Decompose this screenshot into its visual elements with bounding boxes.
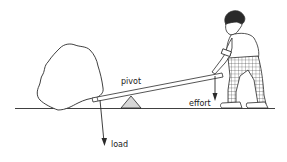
lever-diagram: pivot effort load <box>0 0 287 162</box>
man <box>212 11 268 108</box>
man-head <box>226 22 242 35</box>
pivot-fulcrum <box>121 96 141 108</box>
effort-label: effort <box>189 100 211 108</box>
lever-beam <box>92 73 223 102</box>
effort-arrow-head <box>213 93 218 101</box>
lever-illustration <box>0 0 287 162</box>
pivot-label: pivot <box>121 78 141 86</box>
load-arrow-head <box>102 138 108 146</box>
man-shoe-left <box>221 102 243 108</box>
load-arrow-shaft <box>100 100 104 142</box>
load-label: load <box>111 141 128 149</box>
man-trousers <box>228 56 266 104</box>
man-shoe-right <box>246 102 268 108</box>
